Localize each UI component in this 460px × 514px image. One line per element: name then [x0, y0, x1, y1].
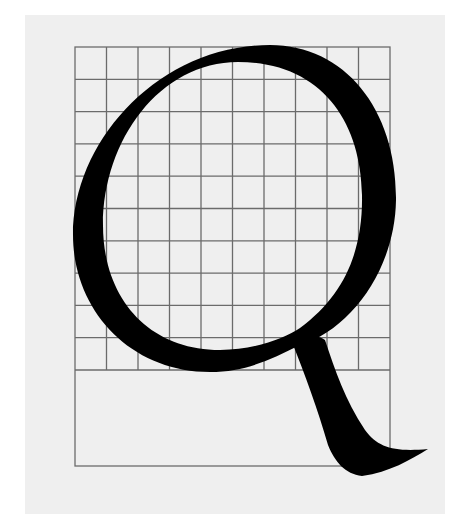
q-tail: [292, 336, 428, 476]
letter-q-glyph: [73, 45, 428, 476]
letter-q-figure: [0, 0, 460, 514]
